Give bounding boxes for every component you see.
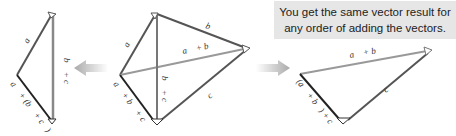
label-b-plus-c: b⃗ + c⃗	[62, 58, 72, 91]
arrowhead-icon	[242, 45, 250, 53]
label-resultant: a⃗ + b⃗ + c⃗	[111, 79, 152, 129]
label-resultant: (a⃗ + b⃗) + c⃗	[294, 77, 340, 131]
vector-c-line	[160, 50, 246, 121]
callout-box: You get the same vector result for any o…	[274, 1, 456, 39]
label-a-plus-b: a⃗ + b⃗	[181, 39, 216, 56]
label-a: a⃗	[121, 34, 135, 49]
center-quadrilateral: a⃗ b⃗ c⃗ a⃗ + b⃗ b⃗ + c⃗ a⃗ + b⃗ + c⃗	[111, 13, 250, 129]
label-b-plus-c: b⃗ + c⃗	[160, 76, 170, 109]
label-a: a⃗	[21, 30, 35, 45]
callout-line-2: any order of adding the vectors.	[274, 20, 456, 36]
label-b: b⃗	[204, 20, 218, 33]
arrowhead-icon	[424, 47, 432, 55]
left-triangle: a⃗ b⃗ + c⃗ a⃗ + (b⃗ + c⃗)	[8, 12, 72, 134]
arrow-left-icon	[74, 60, 108, 76]
label-a-plus-b: a⃗ + b⃗	[349, 44, 384, 60]
callout-line-1: You get the same vector result for	[274, 4, 456, 20]
arrow-right-icon	[256, 60, 290, 76]
label-resultant: a⃗ + (b⃗ + c⃗)	[8, 79, 53, 134]
label-c: c⃗	[205, 86, 220, 101]
vector-a-line	[17, 14, 52, 75]
right-triangle: a⃗ + b⃗ c⃗ (a⃗ + b⃗) + c⃗	[294, 44, 432, 131]
